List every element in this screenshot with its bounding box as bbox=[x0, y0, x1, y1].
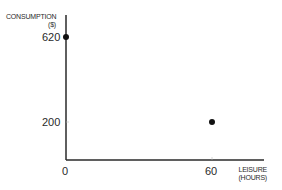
y-axis-label-line1: CONSUMPTION bbox=[6, 13, 56, 21]
x-axis-label: LEISURE (HOURS) bbox=[235, 166, 267, 182]
y-tick-label-200: 200 bbox=[42, 116, 60, 128]
data-point-60-200 bbox=[209, 119, 215, 125]
data-point-0-620 bbox=[63, 34, 69, 40]
y-tick-label-620: 620 bbox=[42, 31, 60, 43]
y-axis-label-line2: ($) bbox=[6, 21, 56, 29]
x-tick-label-60: 60 bbox=[205, 165, 217, 177]
x-tick-label-0: 0 bbox=[62, 165, 68, 177]
x-axis-label-line2: (HOURS) bbox=[235, 174, 267, 182]
y-axis-label: CONSUMPTION ($) bbox=[6, 13, 56, 29]
x-axis-label-line1: LEISURE bbox=[235, 166, 267, 174]
